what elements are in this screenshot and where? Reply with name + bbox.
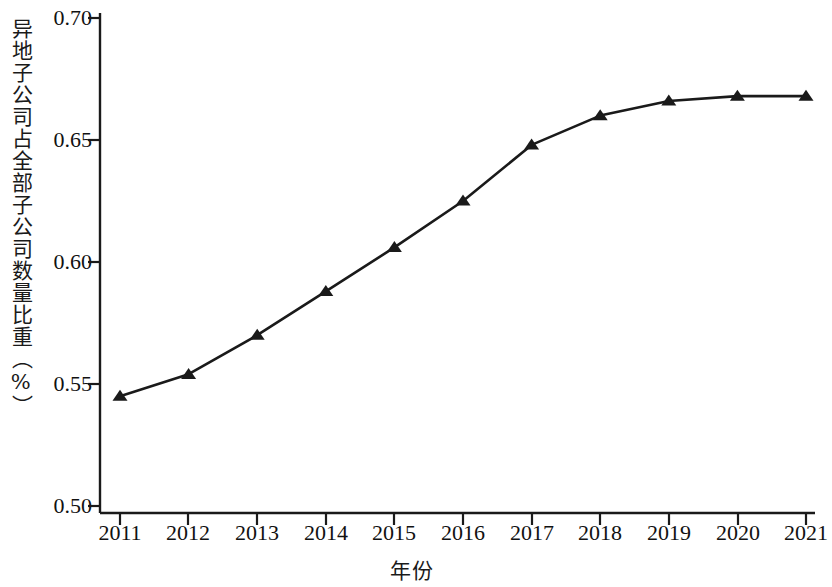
data-point-marker <box>181 368 196 379</box>
x-tick-label: 2012 <box>152 520 224 546</box>
x-tick-label: 2011 <box>84 520 156 546</box>
x-tick-label: 2015 <box>358 520 430 546</box>
x-tick-label: 2016 <box>427 520 499 546</box>
y-axis-ticks <box>88 18 100 506</box>
data-series-line <box>120 96 806 396</box>
x-tick-label: 2013 <box>221 520 293 546</box>
x-tick-label: 2020 <box>702 520 774 546</box>
x-tick-label: 2017 <box>496 520 568 546</box>
x-axis-title: 年份 <box>0 554 824 584</box>
x-tick-label: 2021 <box>770 520 832 546</box>
x-tick-label: 2018 <box>564 520 636 546</box>
x-tick-label: 2019 <box>633 520 705 546</box>
data-series-markers <box>113 90 814 401</box>
x-tick-label: 2014 <box>290 520 362 546</box>
x-axis-tick-labels: 2011 2012 2013 2014 2015 2016 2017 2018 … <box>0 520 824 550</box>
